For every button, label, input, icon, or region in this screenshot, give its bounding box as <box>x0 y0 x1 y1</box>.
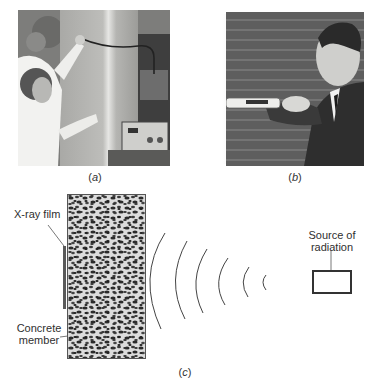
concrete-column-test-photo <box>18 10 170 166</box>
photo-panel-b <box>226 12 364 166</box>
label-concrete-member: Concrete member <box>14 322 64 346</box>
brick-wall-test-photo <box>226 12 364 166</box>
caption-c: (c) <box>170 366 200 378</box>
radiation-source <box>312 270 352 294</box>
caption-a: (a) <box>80 171 110 183</box>
label-source-of-radiation: Source of radiation <box>300 229 364 253</box>
caption-b: (b) <box>280 171 310 183</box>
label-x-ray-film: X-ray film <box>14 208 66 220</box>
photo-panel-a <box>18 10 170 166</box>
radiation-waves <box>145 225 315 335</box>
